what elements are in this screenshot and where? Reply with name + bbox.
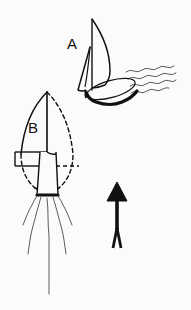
diagram-canvas: A (0, 0, 191, 310)
sailboat-diagram-svg: A (0, 0, 191, 310)
boat-a-label: A (67, 35, 77, 52)
boat-b-hull (37, 152, 58, 195)
boat-b-label: B (28, 119, 38, 136)
boat-a-bow (86, 92, 87, 97)
diagram-background (0, 0, 191, 310)
